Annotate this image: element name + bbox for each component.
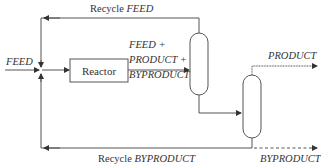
- product-outlet-stream: [252, 66, 317, 75]
- separation-column-2: [243, 75, 261, 138]
- feed-inlet-label: FEED: [6, 56, 33, 67]
- reactor-outlet-label-2: PRODUCT +: [129, 54, 187, 65]
- reactor-outlet-label-3: BYPRODUCT: [129, 69, 190, 80]
- product-outlet-label: PRODUCT: [268, 50, 316, 61]
- recycle-feed-prefix: Recycle: [90, 3, 124, 14]
- recycle-byproduct-stream-name: BYPRODUCT: [134, 153, 195, 164]
- recycle-byproduct-prefix: Recycle: [98, 153, 132, 164]
- column1-to-column2-stream: [199, 95, 241, 113]
- recycle-byproduct-label: Recycle BYPRODUCT: [98, 153, 195, 164]
- recycle-byproduct-stream: [41, 74, 252, 148]
- reactor-label: Reactor: [70, 59, 128, 82]
- separation-column-1: [190, 33, 208, 95]
- reactor-outlet-label-1: FEED +: [129, 39, 166, 50]
- recycle-feed-label: Recycle FEED: [90, 3, 153, 14]
- recycle-feed-stream-name: FEED: [126, 3, 153, 14]
- byproduct-outlet-label: BYPRODUCT: [260, 153, 321, 164]
